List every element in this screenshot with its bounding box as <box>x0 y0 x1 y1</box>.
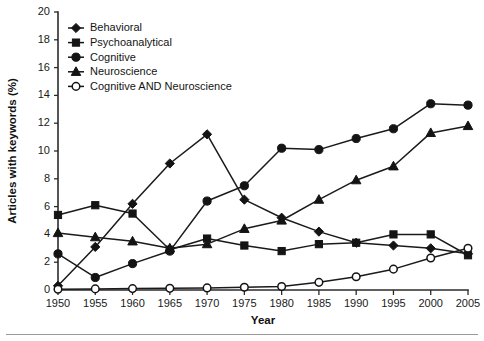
legend-marker <box>72 39 79 46</box>
x-tick-label: 1960 <box>120 297 144 309</box>
data-point <box>240 195 249 204</box>
data-point <box>166 285 174 293</box>
x-tick-label: 1950 <box>46 297 70 309</box>
chart-legend: BehavioralPsychoanalyticalCognitiveNeuro… <box>68 21 232 91</box>
data-point <box>390 265 398 273</box>
footer-divider <box>6 334 478 335</box>
data-point <box>463 121 473 130</box>
legend-item: Cognitive AND Neuroscience <box>68 80 232 92</box>
data-point <box>353 239 360 246</box>
series-line <box>58 126 468 248</box>
data-point <box>390 231 397 238</box>
x-tick-label: 2005 <box>456 297 480 309</box>
data-point <box>314 227 323 236</box>
data-point <box>54 286 62 294</box>
series-cognitive <box>54 100 472 282</box>
data-point <box>352 134 360 142</box>
series-layer <box>53 100 473 293</box>
data-point <box>315 279 323 287</box>
x-tick-label: 1955 <box>83 297 107 309</box>
y-tick-label: 12 <box>38 116 50 128</box>
data-point <box>278 144 286 152</box>
data-point <box>91 273 99 281</box>
line-chart: 02468101214161820 1950195519601965197019… <box>0 0 484 341</box>
data-point <box>278 247 285 254</box>
data-point <box>389 241 398 250</box>
x-tick-label: 1995 <box>381 297 405 309</box>
y-tick-label: 20 <box>38 5 50 17</box>
x-tick-label: 1990 <box>344 297 368 309</box>
y-tick-label: 0 <box>44 283 50 295</box>
x-tick-label: 1980 <box>269 297 293 309</box>
x-axis-title: Year <box>251 314 276 326</box>
data-point <box>241 242 248 249</box>
data-point <box>315 241 322 248</box>
x-tick-label: 1985 <box>307 297 331 309</box>
legend-item: Behavioral <box>68 21 142 33</box>
data-point <box>427 254 435 262</box>
y-axis-title: Articles with keywords (%) <box>6 78 18 224</box>
legend-marker <box>72 53 80 61</box>
legend-item: Neuroscience <box>68 65 157 77</box>
data-point <box>203 284 211 292</box>
data-point <box>92 202 99 209</box>
data-point <box>54 211 61 218</box>
series-line <box>58 205 468 255</box>
x-axis: 1950195519601965197019751980198519901995… <box>46 290 480 309</box>
legend-label: Cognitive <box>90 51 136 63</box>
data-point <box>129 285 137 293</box>
legend-label: Psychoanalytical <box>90 36 172 48</box>
y-tick-label: 8 <box>44 172 50 184</box>
data-point <box>241 283 249 291</box>
series-neuroscience <box>53 121 473 252</box>
legend-marker <box>71 23 80 32</box>
data-point <box>315 146 323 154</box>
data-point <box>427 100 435 108</box>
legend-label: Cognitive AND Neuroscience <box>90 80 232 92</box>
data-point <box>54 250 62 258</box>
data-point <box>352 273 360 281</box>
x-tick-label: 1970 <box>195 297 219 309</box>
data-point <box>91 285 99 293</box>
data-point <box>240 182 248 190</box>
x-tick-label: 2000 <box>418 297 442 309</box>
legend-item: Cognitive <box>68 51 136 63</box>
data-point <box>128 259 136 267</box>
data-point <box>278 283 286 291</box>
legend-label: Behavioral <box>90 21 142 33</box>
legend-label: Neuroscience <box>90 65 157 77</box>
x-tick-label: 1965 <box>158 297 182 309</box>
y-tick-label: 10 <box>38 144 50 156</box>
y-tick-label: 4 <box>44 227 50 239</box>
data-point <box>203 197 211 205</box>
y-tick-label: 16 <box>38 61 50 73</box>
data-point <box>129 210 136 217</box>
data-point <box>426 244 435 253</box>
data-point <box>464 245 472 253</box>
y-tick-label: 2 <box>44 255 50 267</box>
data-point <box>53 228 63 237</box>
y-tick-label: 14 <box>38 88 50 100</box>
y-tick-label: 18 <box>38 33 50 45</box>
data-point <box>427 231 434 238</box>
data-point <box>464 101 472 109</box>
legend-marker <box>72 83 80 91</box>
figure-container: 02468101214161820 1950195519601965197019… <box>0 0 484 341</box>
series-psychoanalytical <box>54 202 471 259</box>
data-point <box>389 125 397 133</box>
y-tick-label: 6 <box>44 200 50 212</box>
series-line <box>58 104 468 278</box>
x-tick-label: 1975 <box>232 297 256 309</box>
legend-item: Psychoanalytical <box>68 36 172 48</box>
data-point <box>314 195 324 204</box>
